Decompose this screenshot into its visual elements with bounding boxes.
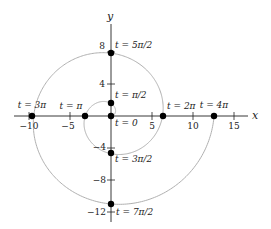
label-t-4pi: t = 4π — [200, 100, 230, 110]
point-t-3pi-half — [108, 150, 114, 156]
y-tick-label: −12 — [87, 207, 106, 217]
x-tick-label: −10 — [20, 121, 39, 131]
point-t-pi — [82, 113, 88, 119]
point-t-3pi — [29, 113, 35, 119]
label-t-pi-half: t = π/2 — [115, 90, 147, 100]
label-t-2pi: t = 2π — [167, 101, 197, 111]
y-tick-label: 4 — [99, 79, 105, 89]
spiral-diagram: x y −10 −5 5 10 15 8 4 −4 −8 −12 — [0, 0, 271, 229]
point-t-2pi — [160, 113, 166, 119]
y-axis-label: y — [106, 10, 114, 23]
x-tick-label: 15 — [228, 121, 240, 131]
x-tick-label: 5 — [149, 121, 155, 131]
label-t-7pi-half: t = 7π/2 — [116, 207, 154, 217]
label-t-3pi: t = 3π — [18, 100, 48, 110]
label-t-pi: t = π — [60, 101, 84, 111]
x-axis-label: x — [252, 109, 259, 122]
label-t-5pi-half: t = 5π/2 — [115, 40, 153, 50]
y-tick-label: 8 — [99, 41, 105, 51]
y-tick-label: −8 — [93, 175, 107, 185]
label-t-3pi-half: t = 3π/2 — [115, 154, 153, 164]
x-tick-label: 10 — [187, 121, 199, 131]
point-t-7pi-half — [108, 201, 114, 207]
point-t-5pi-half — [108, 50, 114, 56]
point-t-pi-half — [108, 100, 114, 106]
x-tick-label: −5 — [61, 121, 75, 131]
label-t-0: t = 0 — [115, 118, 138, 128]
point-t-0 — [108, 113, 114, 119]
point-t-4pi — [211, 113, 217, 119]
y-tick-label: −4 — [93, 142, 107, 152]
